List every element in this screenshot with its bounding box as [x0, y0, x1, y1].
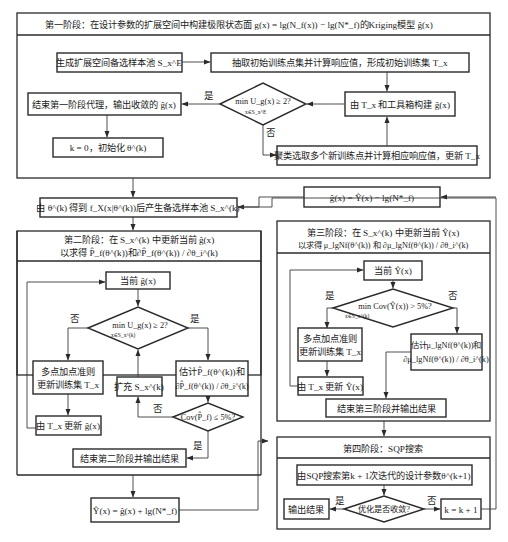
- pool-step-label: 由 θ^(k) 得到 f_X(x|θ^(k))后产生备选样本池 S_x^(k): [36, 202, 239, 213]
- y-from-g-label: Ŷ(x) = ĝ(x) + lg(N*_f): [93, 506, 177, 516]
- stage4-increment-label: k = k + 1: [444, 505, 478, 515]
- stage1-build-model-label: 由 T_x 和工具箱构建 ĝ(x): [350, 99, 450, 110]
- arrow: [188, 328, 208, 360]
- stage2-cov-no-label: 否: [153, 404, 163, 414]
- stage3-estimate-l1: 估计μ_lgNf(θ^(k))和: [411, 340, 482, 350]
- stage1-extract-init-label: 抽取初始训练点集并计算响应值，形成初始训练集 T_x: [232, 57, 448, 68]
- stage3-multi-point-l1: 多点加点准则: [303, 333, 357, 344]
- stage2-multi-point-box[interactable]: 多点加点准则 更新训练集 T_x: [33, 361, 103, 394]
- stage3-update-box[interactable]: 由 T_x 更新 Ŷ(x): [297, 377, 363, 395]
- stage4-search-label: 由SQP搜索第k + 1次迭代的设计参数θ^(k+1): [297, 470, 470, 481]
- stage2-update-label: 由 T_x 更新 ĝ(x): [36, 420, 100, 431]
- stage2-yes-label: 是: [190, 314, 200, 324]
- stage1-decision-label: min U_g(x) ≥ 2?: [235, 97, 291, 106]
- arrow: [27, 282, 105, 428]
- arrow: [453, 308, 457, 333]
- stage2-title-line1: 第二阶段：在 S_x^(k) 中更新当前 ĝ(x): [64, 234, 215, 245]
- stage4-decision-diamond[interactable]: 优化是否收敛?: [344, 496, 424, 522]
- arrow: [68, 328, 88, 360]
- stage4-title: 第四阶段：SQP搜索: [343, 443, 423, 454]
- stage2-estimate-box[interactable]: 估计P̂_f(θ^(k))和 ∂P̂_f(θ^(k)) / ∂θ_i^(k): [175, 361, 248, 396]
- stage2-current-label: 当前 ĝ(x): [120, 275, 156, 286]
- g-from-y-box[interactable]: ĝ(x) = Ŷ(x) − lg(N*_f): [304, 187, 440, 207]
- stage3-estimate-l2: ∂μ_lgNf(θ^(k)) / ∂θ_i^(k): [403, 355, 489, 364]
- stage2-cov-label: Cov(P̂_f) ≤ 5%?: [181, 411, 236, 422]
- stage1-build-model-box[interactable]: 由 T_x 和工具箱构建 ĝ(x): [345, 92, 455, 116]
- stage2-decision-label: min U_g(x) ≥ 2?: [112, 321, 168, 330]
- stage3-estimate-box[interactable]: 估计μ_lgNf(θ^(k))和 ∂μ_lgNf(θ^(k)) / ∂θ_i^(…: [403, 334, 489, 370]
- stage2-cov-diamond[interactable]: Cov(P̂_f) ≤ 5%?: [173, 403, 243, 431]
- stage2-estimate-l2: ∂P̂_f(θ^(k)) / ∂θ_i^(k): [175, 380, 248, 391]
- stage2-end-label: 结束第二阶段并输出结果: [80, 453, 179, 464]
- stage3-current-box[interactable]: 当前 Ŷ(x): [364, 261, 422, 280]
- stage3-decision-label: min Cov(Ŷ(x)) > 5%?: [358, 301, 432, 311]
- stage4-increment-box[interactable]: k = k + 1: [441, 499, 481, 519]
- stage1-decision-sub: x∈S_x^E: [245, 109, 267, 115]
- stage4-decision-label: 优化是否收敛?: [358, 504, 410, 514]
- stage2-cov-yes-label: 是: [193, 441, 203, 451]
- stage2-multi-point-l1: 多点加点准则: [41, 366, 95, 377]
- stage1-gen-pool-box[interactable]: 生成扩展空间备选样本池 S_x^E: [56, 53, 182, 72]
- stage4-output-box[interactable]: 输出结果: [284, 499, 329, 519]
- stage3-no-label: 否: [448, 291, 458, 301]
- stage2-expand-label: 扩充 S_x^(k): [114, 381, 164, 392]
- stage2-estimate-l1: 估计P̂_f(θ^(k))和: [179, 366, 244, 377]
- stage2-decision-diamond[interactable]: min U_g(x) ≥ 2? x∈S_x^(k): [88, 307, 188, 349]
- stage3-multi-point-l2: 更新训练集 T_x: [299, 346, 362, 357]
- stage3-yes-label: 是: [325, 291, 335, 301]
- stage1-yes-label: 是: [204, 91, 214, 101]
- stage2-decision-sub: x∈S_x^(k): [111, 332, 136, 339]
- stage1-cluster-label: 聚类选取多个新训练点并计算相应响应值，更新 T_x: [274, 150, 481, 161]
- stage2-multi-point-l2: 更新训练集 T_x: [37, 379, 100, 390]
- stage2-end-box[interactable]: 结束第二阶段并输出结果: [73, 449, 186, 467]
- stage1-init-k-label: k = 0，初始化 θ^(k): [70, 142, 147, 153]
- stage1-no-label: 否: [266, 128, 276, 138]
- y-from-g-box[interactable]: Ŷ(x) = ĝ(x) + lg(N*_f): [91, 498, 179, 522]
- stage3-decision-diamond[interactable]: min Cov(Ŷ(x)) > 5%? x∈S_x^(k): [333, 289, 453, 327]
- stage2-update-box[interactable]: 由 T_x 更新 ĝ(x): [36, 416, 101, 435]
- stage1-end-label: 结束第一阶段代理，输出收敛的 ĝ(x): [32, 99, 176, 110]
- stage1-init-k-box[interactable]: k = 0，初始化 θ^(k): [53, 138, 163, 157]
- pool-step-box[interactable]: 由 θ^(k) 得到 f_X(x|θ^(k))后产生备选样本池 S_x^(k): [36, 198, 239, 217]
- stage3-title-line2: 以求得 μ_lgNf(θ^(k)) 和 ∂μ_lgNf(θ^(k)) / ∂θ_…: [298, 240, 469, 250]
- arrow: [238, 197, 304, 207]
- stage4-no-label: 否: [427, 496, 437, 506]
- stage3-end-label: 结束第三阶段并输出结果: [337, 403, 436, 414]
- stage3-end-box[interactable]: 结束第三阶段并输出结果: [326, 399, 446, 417]
- stage1-extract-init-box[interactable]: 抽取初始训练点集并计算响应值，形成初始训练集 T_x: [211, 53, 469, 72]
- stage3-decision-sub: x∈S_x^(k): [345, 313, 370, 320]
- stage4-search-box[interactable]: 由SQP搜索第k + 1次迭代的设计参数θ^(k+1): [297, 465, 472, 485]
- stage1-end-box[interactable]: 结束第一阶段代理，输出收敛的 ĝ(x): [28, 93, 181, 115]
- arrow: [327, 308, 333, 328]
- stage4-yes-label: 是: [335, 496, 345, 506]
- stage2-title-line2: 以求得 P̂_f(θ^(k))和∂P̂_f(θ^(k)) / ∂θ_i^(k): [60, 247, 218, 258]
- stage1-gen-pool-label: 生成扩展空间备选样本池 S_x^E: [56, 57, 182, 68]
- stage1-cluster-box[interactable]: 聚类选取多个新训练点并计算相应响应值，更新 T_x: [274, 146, 481, 165]
- stage2-expand-box[interactable]: 扩充 S_x^(k): [114, 377, 164, 396]
- stage4-output-label: 输出结果: [288, 504, 324, 515]
- stage1-decision-diamond[interactable]: min U_g(x) ≥ 2? x∈S_x^E: [220, 83, 306, 125]
- stage3-multi-point-box[interactable]: 多点加点准则 更新训练集 T_x: [298, 328, 362, 361]
- stage2-no-label: 否: [70, 314, 80, 324]
- stage1-title: 第一阶段：在设计参数的扩展空间中构建极限状态面 g(x) = lg(N_f(x)…: [45, 19, 433, 30]
- stage3-title-line1: 第三阶段：在 S_x^(k) 中更新当前 Ŷ(x): [307, 227, 460, 238]
- stage3-update-label: 由 T_x 更新 Ŷ(x): [297, 381, 363, 392]
- stage2-current-box[interactable]: 当前 ĝ(x): [106, 272, 170, 289]
- stage3-current-label: 当前 Ŷ(x): [374, 265, 412, 276]
